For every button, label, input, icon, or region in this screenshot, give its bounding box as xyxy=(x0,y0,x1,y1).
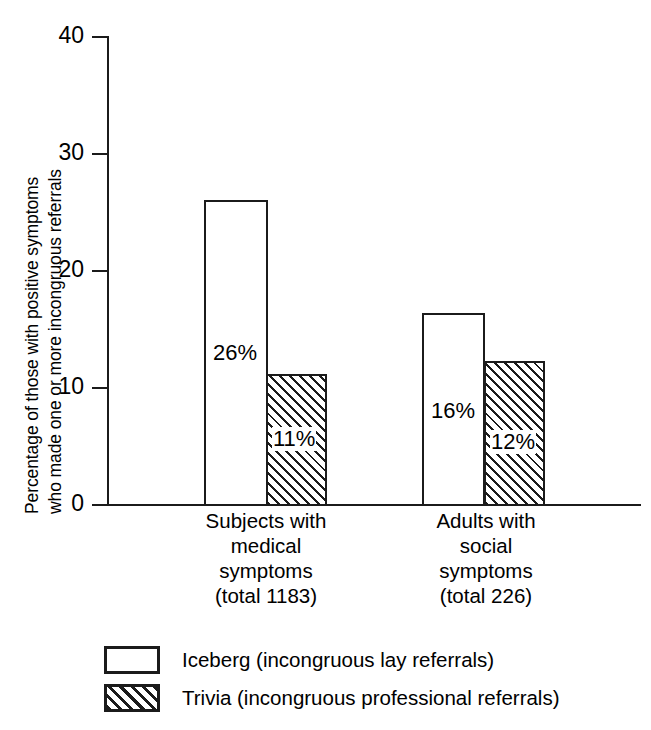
x-category-label-social-line-3: symptoms xyxy=(380,558,592,583)
x-category-label-medical-line-1: Subjects with xyxy=(160,508,372,533)
x-axis-line xyxy=(107,504,641,506)
y-axis-title-line-1: Percentage of those with positive sympto… xyxy=(22,177,43,514)
x-category-label-medical-line-4: (total 1183) xyxy=(160,583,372,608)
bar-value-trivia-medical: 11% xyxy=(272,427,316,451)
legend-label-iceberg: Iceberg (incongruous lay referrals) xyxy=(182,649,494,671)
y-tick-label-40: 40 xyxy=(28,24,84,47)
y-tick-40: 40 xyxy=(0,36,108,38)
legend-item-iceberg: Iceberg (incongruous lay referrals) xyxy=(104,646,494,674)
y-axis-title-line-2: who made one or more incongruous referra… xyxy=(45,169,66,514)
y-tick-10: 10 xyxy=(0,387,108,389)
bar-value-trivia-social: 12% xyxy=(490,430,536,454)
x-category-label-social-line-2: social xyxy=(380,533,592,558)
legend-swatch-trivia xyxy=(104,684,160,712)
legend-swatch-iceberg xyxy=(104,646,160,674)
y-tick-mark-40 xyxy=(92,36,108,38)
y-tick-label-10: 10 xyxy=(28,375,84,398)
x-category-label-social: Adults with social symptoms (total 226) xyxy=(380,508,592,608)
y-tick-0: 0 xyxy=(0,504,108,506)
bar-chart: Percentage of those with positive sympto… xyxy=(0,0,651,730)
y-tick-mark-0 xyxy=(92,504,108,506)
y-tick-label-20: 20 xyxy=(28,258,84,281)
bar-value-iceberg-social: 16% xyxy=(431,400,475,422)
x-category-label-medical-line-2: medical xyxy=(160,533,372,558)
x-category-label-medical: Subjects with medical symptoms (total 11… xyxy=(160,508,372,608)
y-tick-20: 20 xyxy=(0,270,108,272)
y-tick-label-0: 0 xyxy=(28,492,84,515)
y-tick-mark-30 xyxy=(92,153,108,155)
y-tick-30: 30 xyxy=(0,153,108,155)
bar-value-iceberg-medical: 26% xyxy=(213,342,257,364)
y-tick-label-30: 30 xyxy=(28,141,84,164)
y-tick-mark-10 xyxy=(92,387,108,389)
x-category-label-medical-line-3: symptoms xyxy=(160,558,372,583)
x-category-label-social-line-4: (total 226) xyxy=(380,583,592,608)
y-tick-mark-20 xyxy=(92,270,108,272)
x-category-label-social-line-1: Adults with xyxy=(380,508,592,533)
legend-label-trivia: Trivia (incongruous professional referra… xyxy=(182,687,560,709)
legend-item-trivia: Trivia (incongruous professional referra… xyxy=(104,684,560,712)
